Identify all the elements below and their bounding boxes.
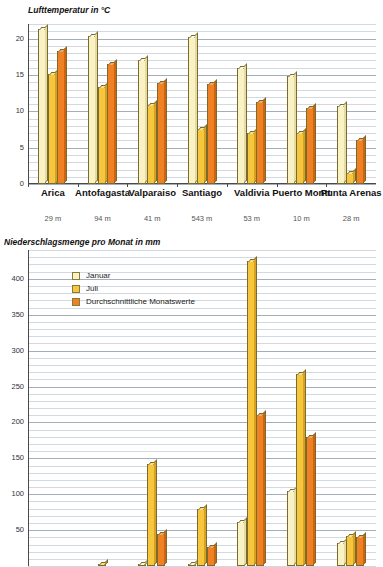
gridline-major bbox=[28, 351, 376, 352]
x-axis-tick bbox=[28, 183, 29, 187]
bar-punta-arenas-durchschnittliche bbox=[356, 537, 364, 566]
x-axis-tick bbox=[227, 183, 228, 187]
bar-valparaiso-juli bbox=[147, 105, 155, 184]
bar-valparaiso-januar bbox=[138, 564, 146, 566]
bar-side-face bbox=[353, 531, 356, 565]
bar-side-face bbox=[263, 97, 266, 183]
y-axis-tick-label: 150 bbox=[2, 453, 24, 462]
bar-puerto-montt-durchschnittliche bbox=[306, 108, 314, 184]
gridline-minor bbox=[28, 329, 376, 330]
bar-punta-arenas-durchschnittliche bbox=[356, 140, 364, 184]
bar-valparaiso-juli bbox=[147, 464, 155, 566]
bar-side-face bbox=[254, 128, 257, 183]
legend-label-juli: Juli bbox=[86, 284, 98, 293]
gridline-minor bbox=[28, 82, 376, 83]
y-axis-tick-label: 250 bbox=[2, 382, 24, 391]
bar-valdivia-durchschnittliche bbox=[256, 415, 264, 566]
gridline-minor bbox=[28, 365, 376, 366]
bar-puerto-montt-juli bbox=[296, 374, 304, 567]
gridline-minor bbox=[28, 24, 376, 25]
y-axis-tick-label: 300 bbox=[2, 346, 24, 355]
bar-santiago-durchschnittliche bbox=[207, 84, 215, 184]
bar-side-face bbox=[344, 102, 347, 183]
bar-antofagasta-juli bbox=[98, 564, 106, 566]
bar-valdivia-januar bbox=[237, 68, 245, 184]
x-axis-elevation-label-punta-arenas: 28 m bbox=[320, 214, 382, 223]
bar-santiago-januar bbox=[188, 564, 196, 566]
bar-side-face bbox=[164, 78, 167, 183]
gridline-minor bbox=[28, 372, 376, 373]
bar-arica-januar bbox=[38, 29, 46, 184]
gridline-major bbox=[28, 39, 376, 40]
gridline-minor bbox=[28, 68, 376, 69]
bar-punta-arenas-juli bbox=[346, 173, 354, 184]
bar-side-face bbox=[363, 533, 366, 565]
y-axis-tick-label: 100 bbox=[2, 489, 24, 498]
bar-side-face bbox=[105, 559, 108, 565]
gridline-minor bbox=[28, 480, 376, 481]
gridline-minor bbox=[28, 358, 376, 359]
bar-side-face bbox=[105, 83, 108, 183]
bar-side-face bbox=[204, 505, 207, 565]
bar-valparaiso-durchschnittliche bbox=[157, 534, 165, 566]
gridline-minor bbox=[28, 444, 376, 445]
gridline-minor bbox=[28, 394, 376, 395]
bar-side-face bbox=[303, 128, 306, 183]
legend-swatch-januar bbox=[72, 272, 80, 280]
bar-santiago-juli bbox=[197, 509, 205, 566]
gridline-minor bbox=[28, 60, 376, 61]
bar-santiago-juli bbox=[197, 129, 205, 184]
gridline-minor bbox=[28, 437, 376, 438]
x-axis-tick bbox=[177, 183, 178, 187]
y-axis-tick-label: 200 bbox=[2, 417, 24, 426]
gridline-major bbox=[28, 111, 376, 112]
y-axis-line bbox=[28, 24, 29, 184]
temperature-x-labels: Arica29 mAntofagasta94 mValparaiso41 mSa… bbox=[28, 188, 376, 234]
bar-valdivia-juli bbox=[247, 133, 255, 184]
bar-side-face bbox=[313, 103, 316, 183]
gridline-minor bbox=[28, 250, 376, 251]
y-axis-tick-label: 350 bbox=[2, 310, 24, 319]
gridline-minor bbox=[28, 90, 376, 91]
y-axis-tick-label: 15 bbox=[2, 70, 24, 79]
bar-side-face bbox=[244, 63, 247, 183]
bar-side-face bbox=[145, 55, 148, 183]
bar-antofagasta-durchschnittliche bbox=[107, 64, 115, 184]
y-axis-tick-label: 10 bbox=[2, 106, 24, 115]
bar-side-face bbox=[313, 432, 316, 565]
bar-valdivia-juli bbox=[247, 261, 255, 566]
gridline-minor bbox=[28, 31, 376, 32]
y-axis-tick-label: 20 bbox=[2, 34, 24, 43]
bar-antofagasta-juli bbox=[98, 87, 106, 184]
bar-side-face bbox=[214, 80, 217, 183]
bar-side-face bbox=[363, 136, 366, 183]
bar-side-face bbox=[64, 46, 67, 183]
bar-valparaiso-januar bbox=[138, 60, 146, 184]
bar-santiago-januar bbox=[188, 37, 196, 184]
temperature-plot-area: 05101520 bbox=[28, 24, 376, 184]
gridline-major bbox=[28, 494, 376, 495]
gridline-minor bbox=[28, 119, 376, 120]
temperature-chart-title: Lufttemperatur in °C bbox=[28, 5, 110, 15]
bar-puerto-montt-juli bbox=[296, 133, 304, 184]
bar-side-face bbox=[55, 69, 58, 183]
temperature-chart: Lufttemperatur in °C 05101520 Arica29 mA… bbox=[0, 0, 383, 190]
precipitation-chart: Niederschlagsmenge pro Monat in mm 50100… bbox=[0, 234, 383, 567]
gridline-minor bbox=[28, 97, 376, 98]
gridline-minor bbox=[28, 415, 376, 416]
y-axis-tick-label: 5 bbox=[2, 143, 24, 152]
gridline-minor bbox=[28, 451, 376, 452]
gridline-minor bbox=[28, 466, 376, 467]
legend-swatch-durchschnittliche bbox=[72, 298, 80, 306]
bar-side-face bbox=[214, 543, 217, 565]
bar-valdivia-durchschnittliche bbox=[256, 102, 264, 184]
gridline-minor bbox=[28, 264, 376, 265]
bar-side-face bbox=[45, 24, 48, 183]
gridline-minor bbox=[28, 408, 376, 409]
legend-item-juli: Juli bbox=[72, 283, 195, 294]
bar-valdivia-januar bbox=[237, 522, 245, 567]
legend-label-januar: Januar bbox=[86, 271, 110, 280]
bar-side-face bbox=[95, 31, 98, 183]
gridline-major bbox=[28, 387, 376, 388]
gridline-minor bbox=[28, 336, 376, 337]
